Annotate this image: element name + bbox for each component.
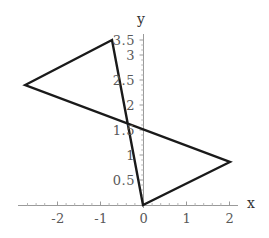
y-tick-label-0-5: 0.5 — [113, 174, 135, 187]
y-tick-label-2: 2 — [126, 99, 135, 112]
y-tick-label-2-5: 2.5 — [113, 74, 135, 87]
x-tick-label-0: 0 — [130, 212, 158, 225]
x-axis-label: x — [247, 196, 255, 210]
y-tick-label-1: 1 — [126, 149, 135, 162]
plot-canvas: 0.5 1 1.5 2 2.5 3 3.5 -2 -1 0 1 2 x y — [0, 0, 269, 238]
x-tick-label--1: -1 — [87, 212, 115, 225]
x-tick-label-2: 2 — [216, 212, 244, 225]
x-tick-label-1: 1 — [173, 212, 201, 225]
x-tick-label--2: -2 — [44, 212, 72, 225]
y-axis-label: y — [137, 12, 145, 26]
y-tick-label-3: 3 — [126, 49, 135, 62]
y-tick-label-3-5: 3.5 — [113, 34, 135, 47]
y-tick-label-1-5: 1.5 — [113, 124, 135, 137]
